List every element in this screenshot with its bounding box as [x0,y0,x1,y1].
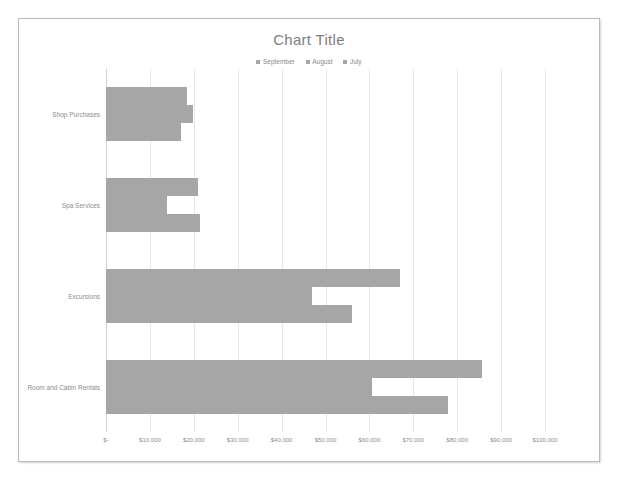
x-tick-label-3: $30,000 [227,437,249,443]
x-tick-label-2: $20,000 [183,437,205,443]
gridline-10 [545,69,546,432]
bar-july-room-and-cabin-rentals[interactable] [106,396,448,414]
bar-september-excursions[interactable] [106,269,400,287]
legend-label-september: September [263,58,295,65]
bar-september-room-and-cabin-rentals[interactable] [106,360,482,378]
x-tick-label-10: $100,000 [532,437,557,443]
legend-swatch-august [306,60,310,64]
legend-item-july[interactable]: July [343,58,361,65]
x-tick-label-6: $60,000 [359,437,381,443]
chart-legend: September August July [19,58,599,65]
x-tick-label-4: $40,000 [271,437,293,443]
chart-frame: Chart Title September August July Shop P… [18,18,600,462]
bar-august-room-and-cabin-rentals[interactable] [106,378,372,396]
bar-group: Room and Cabin Rentals [106,341,545,432]
legend-swatch-september [256,60,260,64]
x-tick-label-7: $70,000 [402,437,424,443]
category-label: Excursions [68,292,100,299]
category-label: Shop Purchases [52,111,100,118]
category-label: Room and Cabin Rentals [27,383,100,390]
x-tick-label-8: $80,000 [446,437,468,443]
bar-september-shop-purchases[interactable] [106,87,187,105]
x-tick-label-0: $- [103,437,108,443]
x-tick-label-5: $50,000 [315,437,337,443]
bar-group: Shop Purchases [106,69,545,160]
legend-item-august[interactable]: August [306,58,333,65]
bar-august-shop-purchases[interactable] [106,105,193,123]
x-axis-tick-labels: $-$10,000$20,000$30,000$40,000$50,000$60… [106,437,545,451]
bar-group: Excursions [106,251,545,342]
bar-july-excursions[interactable] [106,305,352,323]
x-tick-label-9: $90,000 [490,437,512,443]
bar-group: Spa Services [106,160,545,251]
x-tick-label-1: $10,000 [139,437,161,443]
legend-item-september[interactable]: September [256,58,294,65]
bar-september-spa-services[interactable] [106,178,198,196]
legend-label-july: July [350,58,362,65]
legend-swatch-july [343,60,347,64]
bar-august-spa-services[interactable] [106,196,167,214]
bar-july-shop-purchases[interactable] [106,123,181,141]
plot-area: Shop PurchasesSpa ServicesExcursionsRoom… [106,69,545,432]
bar-july-spa-services[interactable] [106,214,200,232]
category-label: Spa Services [62,202,100,209]
bar-august-excursions[interactable] [106,287,312,305]
chart-title: Chart Title [19,31,599,48]
legend-label-august: August [312,58,332,65]
